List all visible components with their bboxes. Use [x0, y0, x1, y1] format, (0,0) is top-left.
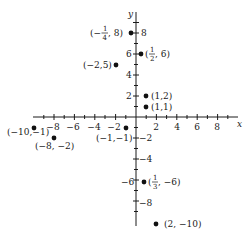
label-part: , 8) [108, 28, 123, 38]
x-tick-label: 8 [214, 122, 220, 132]
label-2-neg10: (2, −10) [164, 219, 201, 229]
x-tick-label: 4 [174, 122, 180, 132]
label-neg1-neg1: (−1,−1) [96, 133, 132, 143]
fraction-numerator: 1 [103, 25, 107, 33]
y-tick-label: 6 [126, 49, 132, 59]
y-tick-label: 8 [141, 28, 147, 38]
point-neg8-neg2 [52, 136, 57, 141]
label-part: , 6) [155, 49, 170, 59]
point-neg1-neg1 [124, 126, 129, 131]
point-half-6 [139, 52, 144, 57]
label-1-2: (1,2) [151, 91, 172, 101]
point-third-neg6 [142, 180, 147, 185]
point-labels: (− 1 4 , 8) ( 1 2 , 6) (−2,5) (1,2) (1,1… [7, 25, 201, 229]
point-1-2 [144, 94, 149, 99]
label-half-6: ( 1 2 , 6) [145, 46, 170, 63]
label-1-1: (1,1) [151, 102, 172, 112]
y-tick-label: −6 [121, 177, 135, 187]
fraction-numerator: 1 [153, 174, 157, 182]
x-tick-label: −2 [107, 122, 120, 132]
x-axis-label: x [237, 119, 242, 129]
x-tick-label: 6 [194, 122, 200, 132]
y-axis-label: y [127, 9, 134, 19]
point-2-neg10 [154, 222, 159, 227]
fraction-denominator: 3 [153, 183, 157, 191]
label-neg2-5: (−2,5) [83, 60, 112, 70]
y-axis [133, 12, 139, 226]
fraction-numerator: 1 [150, 46, 154, 54]
label-part: , −6) [158, 177, 181, 187]
x-tick-label: −6 [66, 122, 80, 132]
label-part: ( [148, 177, 152, 187]
y-tick-label: −8 [139, 198, 153, 208]
y-tick-label: 2 [126, 91, 132, 101]
label-part: ( [145, 49, 149, 59]
y-tick-label: −4 [139, 154, 153, 164]
point-neg2-5 [114, 63, 119, 68]
y-tick-label: −2 [139, 133, 152, 143]
label-neg10-neg1: (−10,−1) [7, 127, 49, 137]
x-tick-labels: −8 −6 −4 −2 2 4 6 8 [46, 122, 220, 132]
label-part: (− [90, 28, 101, 38]
x-tick-label: −4 [87, 122, 101, 132]
point-1-1 [144, 105, 149, 110]
label-neg-quarter-8: (− 1 4 , 8) [90, 25, 123, 42]
y-tick-label: 4 [126, 70, 132, 80]
fraction-denominator: 2 [150, 55, 154, 63]
coordinate-plane: x y −8 −6 −4 −2 2 4 6 8 8 6 4 2 −2 −4 −6… [0, 0, 247, 237]
label-neg8-neg2: (−8, −2) [35, 141, 74, 151]
point-neg-quarter-8 [129, 31, 134, 36]
fraction-denominator: 4 [103, 34, 108, 42]
x-tick-label: 2 [153, 122, 159, 132]
label-third-neg6: ( 1 3 , −6) [148, 174, 181, 191]
